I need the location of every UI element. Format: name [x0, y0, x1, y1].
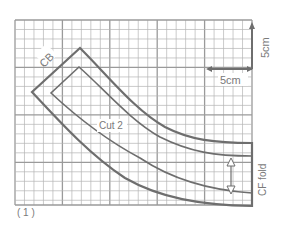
pattern-diagram: 5cm 5cm CB Cut 2 CF fold ( 1 ): [0, 0, 284, 233]
cut-label: Cut 2: [99, 120, 123, 131]
scale-v-label: 5cm: [259, 37, 271, 58]
cf-fold-label: CF fold: [257, 164, 268, 196]
outer-pattern-outline: [32, 48, 252, 206]
figure-number: ( 1 ): [17, 207, 35, 218]
scale-vertical-arrow: [249, 22, 255, 69]
grainline-arrow: [227, 158, 235, 194]
scale-h-label: 5cm: [220, 74, 241, 86]
